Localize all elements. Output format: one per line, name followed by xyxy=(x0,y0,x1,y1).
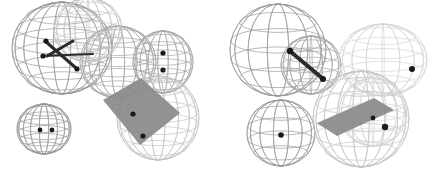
atom-dot-bond-top xyxy=(43,38,48,43)
atom-dot-lower-sphere xyxy=(278,132,284,138)
sphere-layer xyxy=(230,4,427,167)
figure-root xyxy=(0,0,437,175)
atom-dot-bond-end xyxy=(74,66,79,71)
bond-main-diagonal xyxy=(291,52,322,78)
atom-dot-plane-edge xyxy=(382,124,388,130)
atom-dot-bond-start xyxy=(287,48,293,54)
atom-dot-right-sphere xyxy=(409,66,415,72)
atom-dot-sphere-small-b xyxy=(50,128,55,133)
atom-dot-plane-center xyxy=(371,116,376,121)
atom-dot-bond-end xyxy=(320,76,326,82)
atom-dot-right-upper-b xyxy=(160,67,165,72)
panel-right-scene xyxy=(218,0,437,175)
atom-dot-plane-center xyxy=(130,111,135,116)
sphere-upper-inner xyxy=(281,36,341,94)
atom-dot-right-upper-a xyxy=(160,50,165,55)
atom-dot-bond-left xyxy=(40,53,45,58)
bond-layer xyxy=(291,52,322,78)
panel-left-scene xyxy=(0,0,219,175)
atom-dot-plane-lower xyxy=(140,133,145,138)
atom-dot-sphere-small-a xyxy=(38,128,43,133)
sphere-lower-left-small xyxy=(17,104,71,154)
panel-right xyxy=(218,0,437,175)
sphere-layer xyxy=(12,0,199,160)
panel-left xyxy=(0,0,219,175)
